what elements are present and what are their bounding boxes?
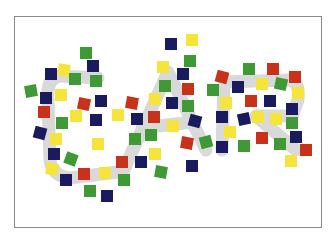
green-square: [129, 133, 141, 145]
yellow-square: [55, 89, 67, 101]
navy-square: [60, 174, 72, 186]
yellow-square: [149, 148, 161, 160]
navy-square: [237, 112, 251, 126]
green-square: [243, 63, 255, 75]
navy-square: [135, 156, 147, 168]
navy-square: [286, 103, 298, 115]
navy-square: [95, 95, 107, 107]
yellow-square: [256, 78, 268, 90]
yellow-square: [270, 113, 282, 125]
red-square: [300, 144, 312, 156]
yellow-square: [149, 93, 161, 105]
yellow-square: [167, 120, 179, 132]
yellow-square: [220, 97, 232, 109]
yellow-square: [92, 138, 104, 150]
yellow-square: [70, 110, 82, 122]
green-square: [56, 117, 68, 129]
green-square: [286, 117, 298, 129]
red-square: [256, 132, 268, 144]
green-square: [69, 73, 81, 85]
red-square: [148, 111, 160, 123]
green-square: [182, 100, 194, 112]
yellow-square: [57, 63, 71, 77]
red-square: [182, 83, 194, 95]
red-square: [245, 95, 257, 107]
navy-square: [90, 114, 102, 126]
navy-square: [165, 38, 177, 50]
navy-square: [40, 92, 52, 104]
yellow-square: [112, 109, 124, 121]
yellow-square: [157, 61, 169, 73]
green-square: [274, 138, 286, 150]
green-square: [80, 47, 92, 59]
green-square: [184, 55, 196, 67]
green-square: [90, 75, 102, 87]
yellow-square: [186, 34, 198, 46]
navy-square: [45, 68, 57, 80]
green-square: [207, 84, 219, 96]
navy-square: [232, 81, 244, 93]
navy-square: [216, 141, 228, 153]
yellow-square: [285, 155, 297, 167]
green-square: [118, 174, 130, 186]
green-square: [63, 151, 78, 166]
navy-square: [216, 111, 228, 123]
red-square: [78, 168, 90, 180]
yellow-square: [252, 111, 264, 123]
car-word-illustration: [0, 0, 334, 234]
yellow-square: [50, 133, 62, 145]
green-square: [159, 80, 171, 92]
red-square: [267, 63, 279, 75]
red-square: [116, 156, 128, 168]
navy-square: [177, 68, 189, 80]
navy-square: [264, 95, 276, 107]
navy-square: [87, 60, 99, 72]
navy-square: [186, 160, 198, 172]
green-square: [24, 84, 38, 98]
red-square: [125, 96, 139, 110]
yellow-square: [292, 87, 304, 99]
navy-square: [48, 148, 60, 160]
navy-square: [290, 131, 302, 143]
green-square: [154, 165, 168, 179]
yellow-square: [45, 162, 59, 176]
navy-square: [101, 190, 113, 202]
red-square: [77, 97, 91, 111]
green-square: [274, 77, 288, 91]
navy-square: [131, 113, 143, 125]
green-square: [145, 129, 157, 141]
green-square: [84, 185, 96, 197]
yellow-square: [224, 126, 236, 138]
red-square: [38, 106, 50, 118]
red-square: [180, 136, 194, 150]
yellow-square: [99, 167, 111, 179]
navy-square: [166, 97, 178, 109]
red-square: [289, 71, 301, 83]
green-square: [238, 140, 250, 152]
